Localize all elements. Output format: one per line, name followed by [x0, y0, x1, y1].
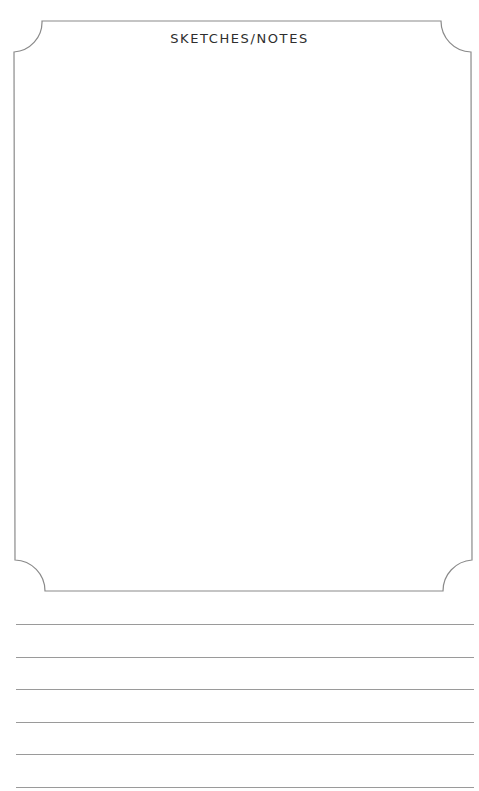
ruled-line-1[interactable] [16, 624, 474, 625]
ruled-line-5[interactable] [16, 754, 474, 755]
ruled-line-6[interactable] [16, 787, 474, 788]
ruled-notes-area [16, 0, 474, 791]
ruled-line-4[interactable] [16, 722, 474, 723]
ruled-line-3[interactable] [16, 689, 474, 690]
ruled-line-2[interactable] [16, 657, 474, 658]
